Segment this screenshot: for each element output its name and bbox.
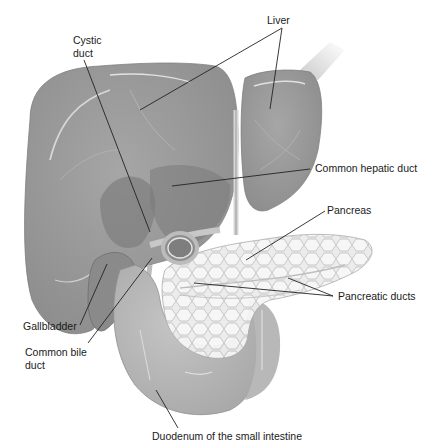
label-liver: Liver bbox=[267, 14, 290, 27]
label-pancreatic-ducts: Pancreatic ducts bbox=[338, 290, 416, 303]
label-duodenum: Duodenum of the small intestine bbox=[152, 430, 302, 443]
label-gallbladder: Gallbladder bbox=[23, 320, 77, 333]
portal-vessel bbox=[163, 233, 197, 263]
anatomy-diagram: Liver Cystic duct Common hepatic duct Pa… bbox=[0, 0, 426, 447]
label-common-hepatic-duct: Common hepatic duct bbox=[315, 162, 417, 175]
label-cystic-duct: Cystic duct bbox=[73, 34, 102, 60]
label-common-bile-duct: Common bile duct bbox=[25, 346, 87, 372]
label-pancreas: Pancreas bbox=[327, 204, 371, 217]
anatomy-illustration bbox=[0, 0, 426, 447]
liver-left-lobe bbox=[241, 70, 322, 211]
